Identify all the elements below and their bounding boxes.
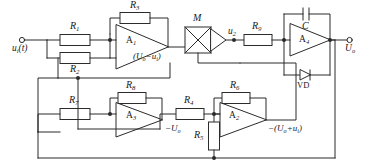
diode-VD-label: VD — [297, 81, 310, 90]
junction-r5-bottom-bus — [212, 156, 216, 160]
capacitor-C-label: C — [302, 21, 309, 31]
resistor-R9-body — [244, 35, 272, 46]
opamp-A2-body — [220, 103, 266, 137]
resistor-R4-body — [176, 109, 204, 120]
resistor-R6-body — [222, 93, 250, 104]
wire-multiplier-bottom-input — [198, 53, 240, 63]
wire-left-riser-to-r2-return — [38, 78, 58, 132]
resistor-R1-body — [60, 35, 90, 46]
opamp-A3-label: A3 — [126, 111, 136, 121]
node-u2-label: u2 — [228, 27, 236, 37]
resistor-R9-label: R9 — [252, 21, 262, 31]
opamp-A1-output-expression: (Uo−ui) — [133, 52, 161, 61]
resistor-R7-body — [60, 109, 90, 120]
resistor-R1-label: R1 — [70, 21, 80, 31]
resistor-R5-label: R5 — [194, 130, 204, 140]
resistor-R6-label: R6 — [230, 80, 240, 90]
opamp-A2-label: A2 — [229, 111, 239, 121]
resistor-R2-body — [60, 53, 90, 64]
resistor-R8-label: R8 — [126, 80, 136, 90]
opamp-A2-output-expression: −(Uo+ui) — [268, 124, 302, 133]
resistor-R3-label: R3 — [130, 0, 140, 10]
resistor-R2-label: R2 — [70, 64, 80, 74]
resistor-R7-label: R7 — [69, 95, 79, 105]
opamp-A4-label: A4 — [299, 35, 309, 45]
output-terminal-node — [347, 37, 352, 42]
input-terminal-node — [19, 37, 24, 42]
input-terminal-label: ui(t) — [12, 44, 28, 54]
multiplier-M-label: M — [193, 13, 201, 23]
opamp-A1-label: A1 — [126, 36, 136, 46]
resistor-R3-body — [120, 13, 150, 24]
output-terminal-label: Uo — [345, 44, 355, 54]
opamp-A3-output-expression: −Uo — [165, 124, 181, 133]
opamp-A4-body — [290, 24, 330, 56]
circuit-diagram-canvas: ui(t) Uo R1 R2 R3 A1 (Uo−ui) M u2 R9 C A… — [0, 0, 370, 167]
junction-left-return-bus — [76, 76, 80, 80]
wire-r7-left-riser — [38, 114, 60, 132]
resistor-R5-body — [209, 122, 220, 150]
resistor-R8-body — [118, 93, 146, 104]
junction-u2 — [232, 38, 236, 42]
schematic-svg — [0, 0, 370, 167]
opamp-A3-body — [116, 103, 162, 137]
diode-VD-triangle — [300, 70, 310, 80]
wire-a2-out-to-multiplier — [240, 63, 296, 120]
multiplier-M-output-triangle — [211, 29, 226, 51]
opamp-A1-body — [116, 25, 168, 69]
resistor-R4-label: R4 — [184, 95, 194, 105]
